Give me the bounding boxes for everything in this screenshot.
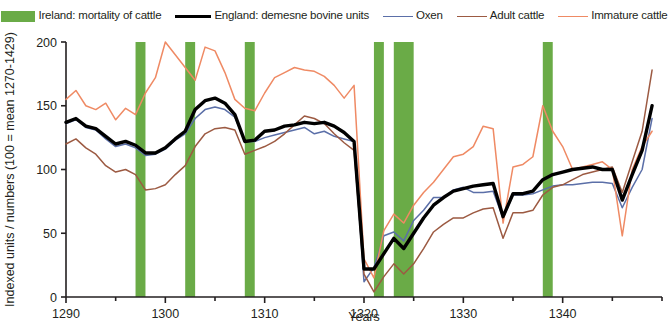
legend-line-england [175, 15, 211, 18]
x-tick-label: 1310 [251, 307, 279, 321]
mortality-band [185, 42, 195, 297]
legend-item-adult-cattle: Adult cattle [457, 10, 545, 22]
legend-item-england-bovine: England: demesne bovine units [175, 10, 369, 22]
mortality-band [543, 42, 553, 297]
y-tick-label: 150 [36, 99, 57, 113]
x-tick-label: 1300 [151, 307, 179, 321]
chart-plot-area: 050100150200129013001310132013301340 Yea… [0, 26, 668, 332]
x-tick-label: 1340 [549, 307, 577, 321]
legend-item-oxen: Oxen [383, 10, 443, 22]
series-line-immature-cattle [66, 42, 652, 278]
y-tick-label: 50 [43, 227, 57, 241]
legend-label-oxen: Oxen [416, 10, 443, 22]
legend-label-immature-cattle: Immature cattle [591, 10, 667, 22]
legend-label-england: England: demesne bovine units [214, 10, 369, 22]
mortality-band [394, 42, 414, 297]
y-tick-label: 0 [50, 291, 57, 305]
x-axis-title: Years [348, 310, 380, 324]
chart-canvas: 050100150200129013001310132013301340 Yea… [0, 26, 668, 332]
mortality-band [245, 42, 255, 297]
legend-label-ireland: Ireland: mortality of cattle [39, 10, 162, 22]
x-tick-label: 1290 [52, 307, 80, 321]
x-tick-label: 1330 [449, 307, 477, 321]
axes-group: 050100150200129013001310132013301340 [36, 36, 662, 322]
mortality-bands-group [136, 42, 553, 297]
data-series-group [66, 42, 652, 292]
legend-item-ireland-mortality: Ireland: mortality of cattle [1, 10, 162, 22]
legend-item-immature-cattle: Immature cattle [558, 10, 667, 22]
y-tick-label: 200 [36, 36, 57, 50]
legend-label-adult-cattle: Adult cattle [490, 10, 545, 22]
legend-line-adult-cattle [457, 16, 487, 17]
legend-swatch-ireland [1, 11, 35, 22]
mortality-band [136, 42, 146, 297]
legend-line-immature-cattle [558, 16, 588, 17]
y-tick-label: 100 [36, 163, 57, 177]
chart-legend: Ireland: mortality of cattle England: de… [0, 6, 668, 26]
y-axis-title: Indexed units / numbers (100 = mean 1270… [3, 32, 17, 307]
chart-figure: Ireland: mortality of cattle England: de… [0, 0, 668, 332]
legend-line-oxen [383, 16, 413, 17]
